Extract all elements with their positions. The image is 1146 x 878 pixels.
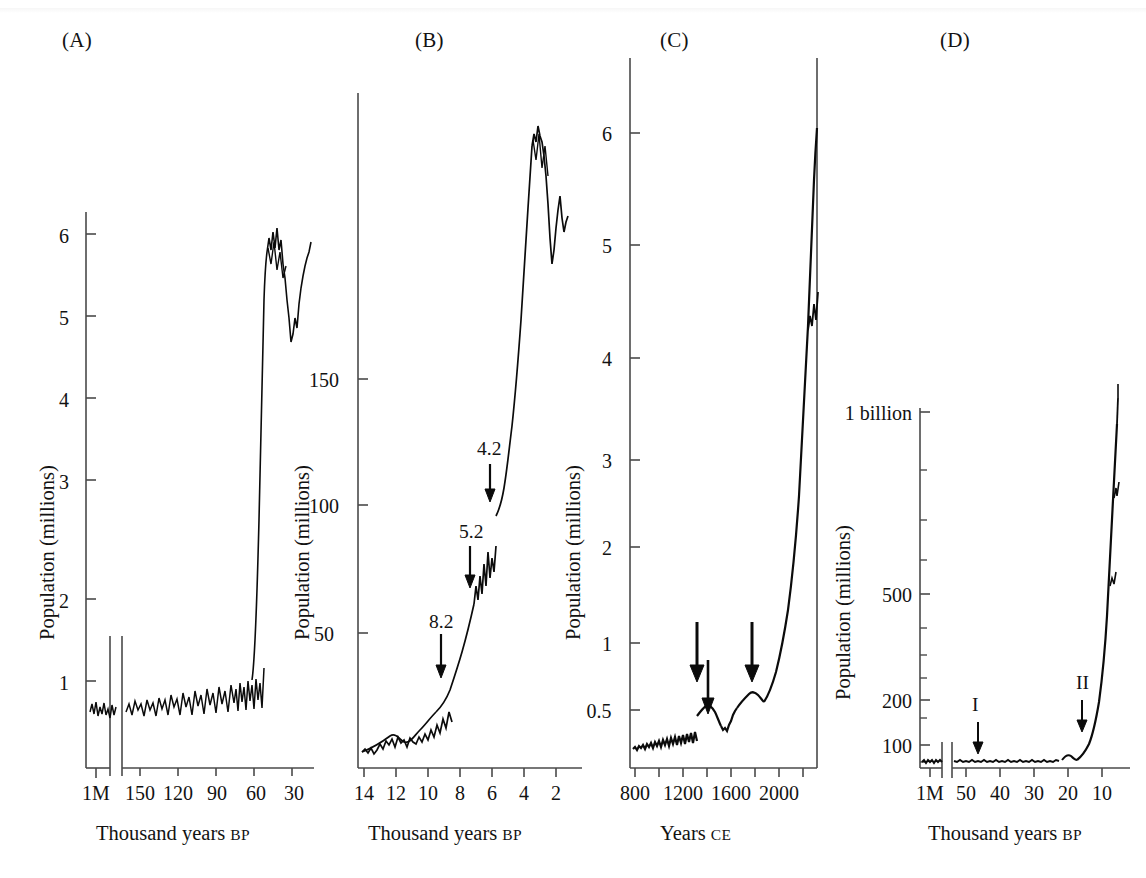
panel-d-xtick-40: 40 — [982, 782, 1018, 805]
panel-d-plot — [800, 0, 1146, 878]
panel-d-xtick-50: 50 — [948, 782, 984, 805]
panel-b-annotation-4-2: 4.2 — [477, 438, 501, 460]
panel-b-annotation-8-2: 8.2 — [429, 611, 453, 633]
panel-a-x-axis-title-main: Thousand years — [96, 822, 225, 844]
panel-b-xtick-8: 8 — [446, 782, 474, 805]
panel-d-x-axis-title-suffix: BP — [1062, 826, 1082, 843]
panel-d-x-axis-title: Thousand yearsBP — [928, 822, 1082, 845]
panel-b-xtick-14: 14 — [346, 782, 382, 805]
panel-b-annotation-5-2: 5.2 — [459, 521, 483, 543]
panel-c-x-axis-title: YearsCE — [660, 822, 731, 845]
panel-a-x-axis-title-suffix: BP — [230, 826, 250, 843]
panel-b-x-axis-title-suffix: BP — [502, 826, 522, 843]
panel-d-xtick-20: 20 — [1050, 782, 1086, 805]
panel-b-xtick-4: 4 — [510, 782, 538, 805]
panel-d: (D) Population (millions) 1 billion 500 … — [800, 0, 1146, 878]
panel-a-x-axis-title: Thousand yearsBP — [96, 822, 250, 845]
figure-population-history: (A) Population (millions) 6 5 4 3 2 1 — [0, 0, 1146, 878]
panel-a-xtick-120: 120 — [155, 782, 201, 805]
panel-a-xtick-90: 90 — [199, 782, 235, 805]
panel-a-xtick-1m: 1M — [70, 782, 122, 805]
panel-b-xtick-6: 6 — [478, 782, 506, 805]
panel-b-xtick-12: 12 — [378, 782, 414, 805]
panel-d-xtick-30: 30 — [1016, 782, 1052, 805]
panel-b-x-axis-title: Thousand yearsBP — [368, 822, 522, 845]
panel-d-annotation-ii: II — [1076, 672, 1089, 694]
panel-c-x-axis-title-suffix: CE — [711, 826, 732, 843]
panel-b-x-axis-title-main: Thousand years — [368, 822, 497, 844]
panel-d-x-axis-title-main: Thousand years — [928, 822, 1057, 844]
panel-c-x-axis-title-main: Years — [660, 822, 706, 844]
panel-d-annotation-i: I — [972, 694, 979, 716]
panel-d-xtick-10: 10 — [1084, 782, 1120, 805]
panel-b-xtick-10: 10 — [410, 782, 446, 805]
